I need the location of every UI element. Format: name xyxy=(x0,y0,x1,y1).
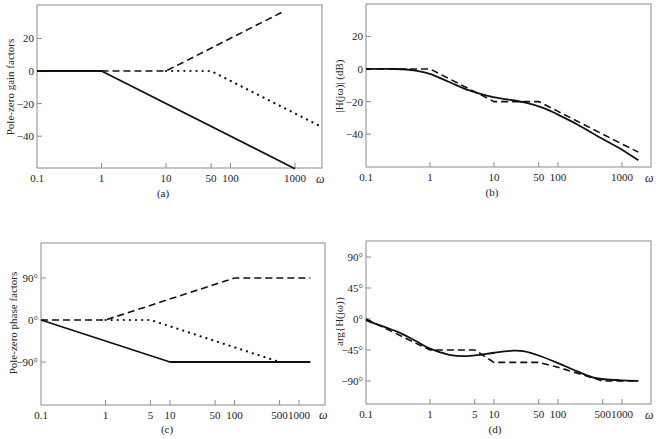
solid-curve xyxy=(41,320,310,362)
panel-a-y-ticks: 200−20−40 xyxy=(17,32,42,142)
x-tick-label: 50 xyxy=(210,409,222,421)
panel-c-y-axis-label: Pole-zero phase factors xyxy=(7,272,19,375)
panel-a-frame xyxy=(37,5,322,168)
y-tick-label: 0° xyxy=(353,313,363,325)
panel-b: 0.1110501001000 200−20−40 |H(jω)| (dB) ω… xyxy=(333,4,653,199)
x-tick-label: 1000 xyxy=(611,171,634,183)
x-tick-label: 500 xyxy=(594,408,611,420)
panel-c-x-axis-symbol: ω xyxy=(319,408,327,422)
y-tick-label: 90° xyxy=(23,272,38,284)
panel-c: 0.11510501005001000 90°0°−90° Pole-zero … xyxy=(7,243,327,436)
panel-a-y-axis-label: Pole-zero gain factors xyxy=(4,39,16,136)
x-tick-label: 10 xyxy=(165,409,177,421)
x-tick-label: 1000 xyxy=(288,409,311,421)
y-tick-label: −40 xyxy=(346,128,364,140)
panel-c-series xyxy=(41,278,310,362)
dashed-curve xyxy=(366,319,638,381)
panel-d-caption: (d) xyxy=(489,423,502,436)
x-tick-label: 0.1 xyxy=(34,409,48,421)
panel-b-x-ticks: 0.1110501001000 xyxy=(359,162,633,183)
panel-b-x-axis-symbol: ω xyxy=(645,171,653,185)
x-tick-label: 100 xyxy=(550,171,567,183)
panel-c-x-ticks: 0.11510501005001000 xyxy=(34,400,310,421)
x-tick-label: 50 xyxy=(206,172,218,184)
x-tick-label: 10 xyxy=(161,172,173,184)
dashed-curve xyxy=(366,69,638,152)
x-tick-label: 0.1 xyxy=(359,408,373,420)
panel-b-y-ticks: 200−20−40 xyxy=(346,30,371,140)
solid-curve xyxy=(37,71,295,169)
y-tick-label: 20 xyxy=(352,30,364,42)
dashed-curve xyxy=(41,278,310,320)
panel-a-x-axis-symbol: ω xyxy=(316,172,324,186)
panel-d-x-axis-symbol: ω xyxy=(645,408,653,422)
x-tick-label: 0.1 xyxy=(30,172,44,184)
x-tick-label: 10 xyxy=(489,408,501,420)
y-tick-label: 0° xyxy=(28,314,38,326)
x-tick-label: 50 xyxy=(533,171,545,183)
x-tick-label: 5 xyxy=(148,409,154,421)
x-tick-label: 5 xyxy=(472,408,478,420)
x-tick-label: 10 xyxy=(489,171,501,183)
panel-c-caption: (c) xyxy=(161,423,174,436)
figure-canvas: 0.1110501001000 200−20−40 Pole-zero gain… xyxy=(0,0,658,439)
panel-a: 0.1110501001000 200−20−40 Pole-zero gain… xyxy=(4,5,324,200)
panel-d: 0.11510501005001000 90°45°0°−45°−90° arg… xyxy=(333,241,653,436)
panel-a-caption: (a) xyxy=(157,187,170,200)
panel-d-y-axis-label: arg{H(jω)} xyxy=(333,296,346,346)
panel-d-x-ticks: 0.11510501005001000 xyxy=(359,399,633,420)
panel-a-series xyxy=(37,11,321,169)
dotted-curve xyxy=(166,71,321,126)
x-tick-label: 100 xyxy=(222,172,239,184)
x-tick-label: 50 xyxy=(533,408,545,420)
panel-b-caption: (b) xyxy=(486,186,499,199)
x-tick-label: 0.1 xyxy=(359,171,373,183)
x-tick-label: 1 xyxy=(427,171,433,183)
panel-a-x-ticks: 0.1110501001000 xyxy=(30,163,306,184)
x-tick-label: 100 xyxy=(550,408,567,420)
y-tick-label: 45° xyxy=(348,282,363,294)
y-tick-label: −90° xyxy=(341,375,363,387)
y-tick-label: 0 xyxy=(358,63,364,75)
y-tick-label: −20 xyxy=(346,96,364,108)
x-tick-label: 1 xyxy=(427,408,433,420)
x-tick-label: 1000 xyxy=(611,408,634,420)
y-tick-label: 90° xyxy=(348,251,363,263)
panel-d-series xyxy=(366,319,638,381)
y-tick-label: −20 xyxy=(17,98,35,110)
panel-b-y-axis-label: |H(jω)| (dB) xyxy=(333,59,346,112)
solid-curve xyxy=(366,320,638,381)
y-tick-label: 0 xyxy=(29,65,35,77)
y-tick-label: −90° xyxy=(16,356,38,368)
y-tick-label: −40 xyxy=(17,130,35,142)
x-tick-label: 1000 xyxy=(284,172,307,184)
x-tick-label: 100 xyxy=(226,409,243,421)
dotted-curve xyxy=(106,320,280,362)
solid-curve xyxy=(366,69,638,160)
x-tick-label: 1 xyxy=(99,172,105,184)
x-tick-label: 500 xyxy=(271,409,288,421)
panel-c-frame xyxy=(41,243,325,405)
panel-b-series xyxy=(366,69,638,160)
x-tick-label: 1 xyxy=(103,409,109,421)
y-tick-label: 20 xyxy=(23,32,35,44)
dashed-curve xyxy=(102,11,286,71)
